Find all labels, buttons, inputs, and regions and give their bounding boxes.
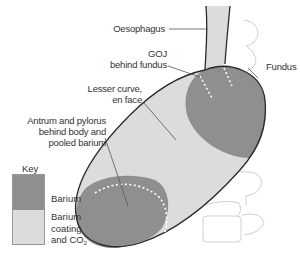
key-title: Key bbox=[22, 163, 38, 174]
goj-line2: behind fundus bbox=[110, 59, 167, 70]
coating-line1: Barium bbox=[51, 211, 87, 223]
label-antrum: Antrum and pylorus behind body and poole… bbox=[27, 115, 106, 148]
label-oesophagus: Oesophagus bbox=[113, 23, 165, 34]
lesser-curve-line1: Lesser curve, bbox=[88, 83, 142, 94]
antrum-line3: pooled barium bbox=[27, 137, 106, 148]
antrum-line1: Antrum and pylorus bbox=[27, 115, 106, 126]
goj-line1: GOJ bbox=[110, 48, 167, 59]
coating-line2: coating bbox=[51, 223, 87, 235]
key-legend bbox=[12, 174, 45, 245]
key-label-coating: Barium coating and CO2 bbox=[51, 211, 87, 250]
label-lesser-curve: Lesser curve, en face bbox=[88, 83, 142, 105]
key-label-barium: Barium bbox=[51, 193, 81, 205]
antrum-line2: behind body and bbox=[27, 126, 106, 137]
lesser-curve-line2: en face bbox=[88, 94, 142, 105]
label-fundus: Fundus bbox=[266, 61, 297, 72]
key-swatch-coating bbox=[13, 210, 44, 244]
label-goj: GOJ behind fundus bbox=[110, 48, 167, 70]
oesophagus-shape bbox=[205, 6, 230, 70]
key-swatch-barium bbox=[13, 175, 44, 210]
coating-line3: and CO2 bbox=[51, 234, 87, 250]
